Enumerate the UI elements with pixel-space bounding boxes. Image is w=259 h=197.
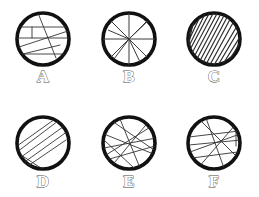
panel-a: A [16, 13, 69, 86]
panel-label-f: F [209, 172, 219, 191]
panel-label-d: D [37, 172, 49, 191]
panel-label-b: B [123, 67, 134, 86]
panel-b: B [103, 13, 155, 86]
circles-figure: A B [0, 0, 259, 197]
panel-f: F [188, 117, 241, 191]
panel-label-e: E [123, 172, 134, 191]
panel-c: C [182, 8, 250, 86]
figure-container: A B [0, 0, 259, 197]
panel-d: D [17, 117, 69, 191]
panel-label-c: C [208, 67, 220, 86]
panel-e: E [103, 117, 156, 191]
panel-label-a: A [37, 67, 50, 86]
